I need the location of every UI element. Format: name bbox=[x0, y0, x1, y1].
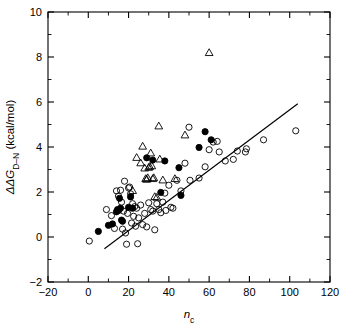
series-open-circle bbox=[86, 124, 299, 247]
plot-canvas: −20020406080100120 −20246810 nc ΔΔGD–N (… bbox=[0, 0, 345, 328]
data-point-triangle bbox=[181, 131, 189, 138]
data-point-open-circle bbox=[121, 178, 127, 184]
x-tick-label: 80 bbox=[243, 286, 255, 298]
data-point-open-circle bbox=[146, 200, 152, 206]
data-point-open-circle bbox=[186, 124, 192, 130]
y-tick-label: 2 bbox=[36, 186, 42, 198]
x-tick-label: 120 bbox=[321, 286, 339, 298]
y-axis-major-ticks bbox=[48, 12, 330, 282]
data-point-open-circle bbox=[214, 138, 220, 144]
axis-frame bbox=[48, 12, 330, 282]
y-tick-label: −2 bbox=[29, 276, 42, 288]
y-tick-label: 10 bbox=[30, 6, 42, 18]
data-point-open-circle bbox=[103, 206, 109, 212]
data-point-triangle bbox=[139, 142, 147, 149]
y-tick-label: 0 bbox=[36, 231, 42, 243]
data-point-triangle bbox=[159, 176, 167, 183]
x-tick-label: 100 bbox=[281, 286, 299, 298]
data-point-triangle bbox=[205, 49, 213, 56]
data-point-filled-circle bbox=[119, 218, 125, 224]
x-tick-label: 60 bbox=[203, 286, 215, 298]
x-axis-title: nc bbox=[184, 308, 195, 325]
data-point-filled-circle bbox=[196, 144, 202, 150]
data-point-triangle bbox=[155, 122, 163, 129]
data-point-open-circle bbox=[86, 238, 92, 244]
data-point-open-circle bbox=[216, 149, 222, 155]
data-point-open-circle bbox=[170, 205, 176, 211]
y-tick-label: 4 bbox=[36, 141, 42, 153]
data-point-open-circle bbox=[152, 227, 158, 233]
data-point-open-circle bbox=[154, 201, 160, 207]
x-tick-label: 40 bbox=[163, 286, 175, 298]
scatter-plot-figure: −20020406080100120 −20246810 nc ΔΔGD–N (… bbox=[0, 0, 345, 328]
y-axis-minor-ticks bbox=[48, 35, 330, 260]
data-point-open-circle bbox=[182, 160, 188, 166]
x-axis-tick-labels: −20020406080100120 bbox=[39, 286, 340, 298]
x-axis-major-ticks bbox=[48, 12, 330, 282]
data-point-filled-circle bbox=[130, 205, 136, 211]
data-point-filled-circle bbox=[127, 194, 133, 200]
data-point-filled-circle bbox=[109, 221, 115, 227]
axes-border bbox=[48, 12, 330, 282]
data-point-open-circle bbox=[202, 164, 208, 170]
data-point-open-circle bbox=[123, 241, 129, 247]
data-markers-layer bbox=[86, 49, 299, 248]
data-point-triangle bbox=[133, 154, 141, 161]
x-tick-label: 20 bbox=[122, 286, 134, 298]
data-point-open-circle bbox=[260, 137, 266, 143]
x-axis-minor-ticks bbox=[68, 12, 310, 282]
data-point-open-circle bbox=[138, 202, 144, 208]
svg-text:ΔΔGD–N (kcal/mol): ΔΔGD–N (kcal/mol) bbox=[4, 100, 21, 196]
data-point-filled-circle bbox=[202, 129, 208, 135]
regression-line-layer bbox=[104, 104, 297, 249]
y-tick-label: 8 bbox=[36, 51, 42, 63]
data-point-filled-circle bbox=[95, 228, 101, 234]
data-point-open-circle bbox=[206, 147, 212, 153]
data-point-open-circle bbox=[293, 128, 299, 134]
data-point-open-circle bbox=[117, 187, 123, 193]
svg-text:nc: nc bbox=[184, 308, 195, 325]
data-point-filled-circle bbox=[158, 189, 164, 195]
data-point-open-circle bbox=[128, 220, 134, 226]
x-tick-label: 0 bbox=[85, 286, 91, 298]
y-axis-title: ΔΔGD–N (kcal/mol) bbox=[4, 100, 21, 196]
data-point-open-circle bbox=[230, 156, 236, 162]
data-point-filled-circle bbox=[176, 165, 182, 171]
y-tick-label: 6 bbox=[36, 96, 42, 108]
data-point-filled-circle bbox=[117, 205, 123, 211]
data-point-open-circle bbox=[135, 241, 141, 247]
y-axis-tick-labels: −20246810 bbox=[29, 6, 42, 288]
data-point-filled-circle bbox=[150, 157, 156, 163]
data-point-filled-circle bbox=[116, 195, 122, 201]
data-point-filled-circle bbox=[208, 137, 214, 143]
data-point-open-circle bbox=[142, 210, 148, 216]
regression-line bbox=[104, 104, 297, 249]
